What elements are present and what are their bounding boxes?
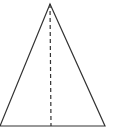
isosceles-triangle — [0, 4, 105, 126]
diagram-canvas — [0, 0, 122, 140]
triangle-diagram — [0, 0, 122, 140]
altitude-dashed-line — [50, 4, 51, 126]
